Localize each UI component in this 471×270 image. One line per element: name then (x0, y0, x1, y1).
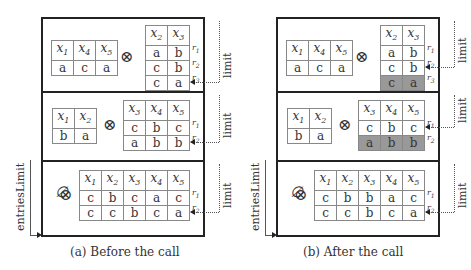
right-relation-table: x1x2x3x4x5cbbacccbca (314, 170, 425, 221)
join-operator-icon: ⊗ (120, 49, 133, 65)
frame: x1x4x5aca⊗x2x3abcbcar1r2r3x1x2ba⊗x3x4x5c… (41, 17, 205, 237)
table-cell: a (52, 61, 74, 76)
table-cell: c (337, 206, 359, 221)
row-label: r1 (192, 189, 200, 200)
table-cell: b (381, 121, 403, 136)
table-row: abb (124, 136, 190, 151)
limit-pointer-line (219, 21, 220, 82)
column-header: x2 (102, 171, 124, 191)
table-row: ba (288, 128, 332, 143)
table-cell: b (53, 128, 75, 143)
column-header: x2 (146, 26, 168, 46)
row-label: r3 (427, 74, 435, 85)
table-cell: a (331, 61, 353, 76)
figure-caption: (a) Before the call (70, 245, 180, 259)
table-cell: c (381, 206, 403, 221)
table-cell: b (168, 136, 190, 151)
join-operator-icon: ⊗ (59, 187, 72, 203)
left-relation-table: x1x2ba (52, 108, 97, 144)
arrow-left-icon (190, 139, 195, 145)
column-header: x1 (80, 171, 102, 191)
column-header: x5 (168, 171, 190, 191)
table-cell: c (124, 191, 146, 206)
table-cell: b (102, 191, 124, 206)
table-cell: c (403, 121, 425, 136)
column-header: x3 (403, 26, 425, 46)
column-header: x5 (403, 101, 425, 121)
table-cell: c (146, 206, 168, 221)
table-row: cb (146, 61, 190, 76)
table-cell: b (146, 121, 168, 136)
arrow-left-icon (190, 209, 195, 215)
table-cell: b (124, 206, 146, 221)
column-header: x3 (359, 101, 381, 121)
table-cell: a (124, 136, 146, 151)
table-cell: c (80, 191, 102, 206)
table-cell: c (102, 206, 124, 221)
table-cell: a (168, 206, 190, 221)
table-cell: b (146, 136, 168, 151)
table-header-row: x1x2x3x4x5 (80, 171, 190, 191)
shaded-cell: c (381, 76, 403, 91)
table-cell: c (146, 61, 168, 76)
shaded-cell: b (381, 136, 403, 151)
limit-label: limit (221, 113, 234, 138)
table-cell: b (359, 191, 381, 206)
entries-limit-pointer-line (30, 160, 31, 235)
column-header: x4 (381, 171, 403, 191)
frame: x1x4x5aca⊗x2x3abcbcar1r2r3x1x2ba⊗x3x4x5c… (276, 17, 440, 237)
panel-before: x1x4x5aca⊗x2x3abcbcar1r2r3x1x2ba⊗x3x4x5c… (0, 0, 235, 270)
limit-label: limit (456, 183, 469, 208)
column-header: x2 (310, 108, 332, 128)
pipeline-stage: x1x2ba⊗x3x4x5cbcabbr1r2 (278, 93, 438, 162)
table-cell: c (403, 191, 425, 206)
column-header: x1 (288, 108, 310, 128)
table-cell: b (288, 128, 310, 143)
column-header: x4 (146, 101, 168, 121)
table-header-row: x2x3 (146, 26, 190, 46)
limit-label: limit (456, 38, 469, 63)
table-row: ba (53, 128, 97, 143)
column-header: x3 (359, 171, 381, 191)
table-cell: c (168, 121, 190, 136)
arrow-right-icon (37, 232, 42, 238)
pipeline-stage: x1x2ba⊗x3x4x5cbcabbr1r2 (43, 93, 203, 162)
pipeline-stage: x1x4x5aca⊗x2x3abcbcar1r2r3 (278, 19, 438, 93)
column-header: x4 (381, 101, 403, 121)
column-header: x2 (75, 108, 97, 128)
arrow-left-icon (425, 64, 430, 70)
table-row: cb (381, 61, 425, 76)
column-header: x3 (124, 101, 146, 121)
left-relation-table: x1x2ba (287, 108, 332, 144)
table-row: cbc (124, 121, 190, 136)
row-label: r1 (427, 44, 435, 55)
panel-after: x1x4x5aca⊗x2x3abcbcar1r2r3x1x2ba⊗x3x4x5c… (235, 0, 470, 270)
table-cell: a (146, 191, 168, 206)
table-row: cbcac (80, 191, 190, 206)
table-header-row: x1x4x5 (287, 41, 353, 61)
row-label: r1 (427, 189, 435, 200)
column-header: x1 (52, 41, 74, 61)
row-label: r2 (427, 134, 435, 145)
column-header: x2 (337, 171, 359, 191)
table-row: cbbac (315, 191, 425, 206)
figure-caption: (b) After the call (303, 245, 403, 259)
table-row: ab (381, 46, 425, 61)
table-header-row: x1x4x5 (52, 41, 118, 61)
column-header: x1 (315, 171, 337, 191)
table-cell: c (80, 206, 102, 221)
table-cell: a (146, 46, 168, 61)
column-header: x5 (168, 101, 190, 121)
entries-limit-pointer-line (265, 160, 266, 235)
table-header-row: x1x2 (288, 108, 332, 128)
column-header: x1 (287, 41, 309, 61)
column-header: x4 (74, 41, 96, 61)
table-cell: a (403, 206, 425, 221)
table-row: aca (52, 61, 118, 76)
table-cell: a (287, 61, 309, 76)
limit-label: limit (221, 53, 234, 78)
column-header: x2 (381, 26, 403, 46)
right-relation-table: x3x4x5cbcabb (358, 100, 425, 151)
table-cell: c (168, 191, 190, 206)
table-header-row: x3x4x5 (359, 101, 425, 121)
